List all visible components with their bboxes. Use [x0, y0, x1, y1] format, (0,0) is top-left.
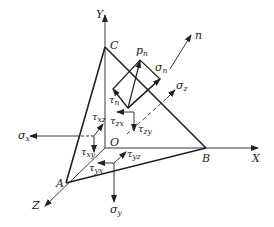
tau-yz-arrow	[114, 152, 126, 163]
label-sigma-y: σy	[110, 204, 122, 215]
normal-label-n: n	[195, 30, 202, 41]
vertex-label-b: B	[202, 153, 210, 164]
label-tau-yz: τyz	[127, 149, 141, 159]
label-p-n: pn	[136, 45, 148, 56]
vertex-label-c: C	[110, 40, 118, 51]
tau-xz-arrow	[94, 124, 103, 136]
coordinate-axes	[45, 15, 258, 206]
normal-n-arrow	[170, 35, 191, 69]
z-axis	[45, 148, 105, 206]
axis-label-x: X	[252, 153, 260, 164]
tetrahedron-stress-diagram	[0, 0, 274, 227]
label-tau-zx: τzx	[110, 116, 124, 126]
y-face-stresses	[98, 152, 126, 202]
origin-label-o: O	[110, 137, 119, 148]
label-sigma-z: σz	[176, 80, 187, 91]
label-sigma-n: σn	[155, 62, 167, 73]
oblique-face-abc	[66, 47, 206, 183]
label-sigma-x: σx	[18, 130, 30, 141]
label-tau-n: τn	[109, 95, 119, 105]
oblique-plane-stress-box	[113, 60, 160, 108]
axis-label-y: Y	[96, 9, 103, 20]
label-tau-xz: τxz	[92, 112, 106, 122]
vertex-label-a: A	[56, 178, 64, 189]
label-tau-xy: τxy	[81, 147, 95, 157]
axis-label-z: Z	[32, 200, 40, 211]
label-tau-yx: τyx	[89, 163, 103, 173]
label-tau-zy: τzy	[138, 124, 152, 134]
sigma-n-vector	[128, 79, 160, 108]
pn-vector	[128, 61, 140, 108]
